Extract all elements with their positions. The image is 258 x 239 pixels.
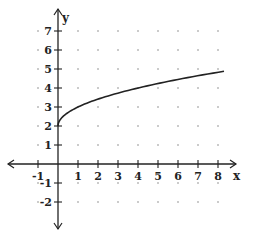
- svg-text:6: 6: [174, 170, 182, 183]
- svg-text:4: 4: [44, 82, 52, 95]
- svg-text:-2: -2: [40, 196, 52, 209]
- svg-text:8: 8: [214, 170, 222, 183]
- svg-text:6: 6: [44, 44, 52, 57]
- svg-text:-1: -1: [40, 177, 52, 190]
- svg-text:5: 5: [44, 63, 52, 76]
- curve-line: [58, 71, 224, 126]
- svg-text:7: 7: [194, 170, 202, 183]
- svg-text:1: 1: [74, 170, 82, 183]
- svg-text:3: 3: [114, 170, 122, 183]
- svg-text:5: 5: [154, 170, 162, 183]
- svg-text:1: 1: [44, 139, 52, 152]
- svg-text:7: 7: [44, 25, 52, 38]
- x-axis-label: x: [233, 169, 241, 183]
- svg-text:2: 2: [94, 170, 102, 183]
- svg-text:3: 3: [44, 101, 52, 114]
- function-graph: -112345678-2-11234567 x y: [0, 0, 258, 239]
- svg-text:2: 2: [44, 120, 52, 133]
- tick-labels: -112345678-2-11234567: [32, 25, 222, 209]
- y-axis-label: y: [61, 11, 70, 25]
- grid-dots: [37, 30, 219, 203]
- svg-text:4: 4: [134, 170, 142, 183]
